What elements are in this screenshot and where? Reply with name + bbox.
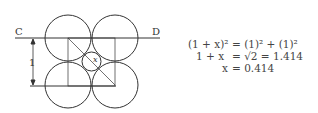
label-c: C: [15, 26, 23, 37]
label-d: D: [152, 26, 160, 37]
label-dimension: 1: [29, 57, 35, 68]
arrow-down-icon: [31, 80, 35, 85]
equation-rhs: = 0.414: [232, 62, 274, 74]
equation-lhs: 1 + x: [196, 50, 224, 62]
equation-rhs: = √2 = 1.414: [232, 50, 303, 62]
diagonal-line: [68, 38, 115, 85]
equation-lhs: x: [222, 62, 228, 74]
equation-lhs: (1 + x)²: [188, 38, 228, 50]
arrow-up-icon: [31, 39, 35, 44]
label-x: x: [93, 55, 98, 64]
circle-packing-diagram: C D 1 x: [0, 0, 170, 113]
equation-rhs: = (1)² + (1)²: [232, 38, 298, 50]
